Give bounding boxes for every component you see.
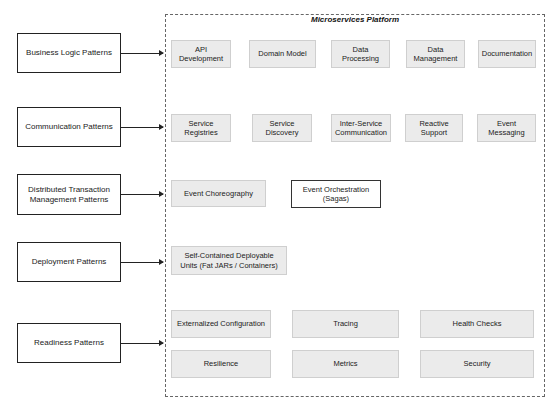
node-service-registries: Service Registries — [171, 114, 231, 142]
node-api-development: API Development — [171, 40, 231, 68]
node-metrics: Metrics — [292, 350, 399, 378]
pattern-business-logic: Business Logic Patterns — [17, 33, 121, 73]
arrow-deployment — [121, 262, 163, 263]
arrow-business-logic — [121, 53, 163, 54]
node-data-management: Data Management — [406, 40, 465, 68]
node-reactive-support: Reactive Support — [405, 114, 463, 142]
pattern-deployment: Deployment Patterns — [17, 242, 121, 282]
arrow-communication — [121, 127, 163, 128]
node-security: Security — [420, 350, 534, 378]
pattern-readiness: Readiness Patterns — [17, 323, 121, 363]
node-externalized-configuration: Externalized Configuration — [171, 310, 271, 338]
node-domain-model: Domain Model — [249, 40, 316, 68]
arrow-readiness — [121, 343, 163, 344]
node-tracing: Tracing — [292, 310, 399, 338]
node-event-orchestration: Event Orchestration (Sagas) — [291, 180, 381, 208]
node-resilience: Resilience — [171, 350, 271, 378]
node-health-checks: Health Checks — [420, 310, 534, 338]
node-event-choreography: Event Choreography — [171, 180, 266, 207]
platform-title: Microservices Platform — [165, 15, 545, 24]
pattern-communication: Communication Patterns — [17, 107, 121, 147]
arrow-distributed-transaction — [121, 194, 163, 195]
pattern-distributed-transaction: Distributed Transaction Management Patte… — [17, 174, 121, 215]
node-self-contained-units: Self-Contained Deployable Units (Fat JAR… — [171, 246, 287, 275]
node-documentation: Documentation — [478, 40, 536, 68]
node-inter-service-communication: Inter-Service Communication — [331, 114, 391, 142]
node-data-processing: Data Processing — [331, 40, 390, 68]
node-event-messaging: Event Messaging — [477, 114, 536, 142]
node-service-discovery: Service Discovery — [252, 114, 312, 142]
